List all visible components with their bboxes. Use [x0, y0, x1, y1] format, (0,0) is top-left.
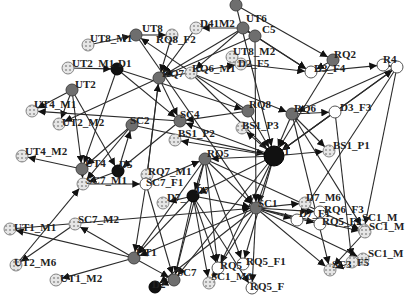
node-label: UT8_M1	[90, 32, 132, 44]
node-label: BS1_P3	[242, 119, 279, 131]
node-label: R4	[383, 53, 397, 65]
node-label: D1	[118, 57, 131, 69]
edge-HUB-to-RQ5b	[221, 156, 274, 263]
node-label: RQ5_F2	[322, 215, 362, 227]
edge-SC1-to-RQ5_F3	[252, 208, 256, 282]
node-label: RQ2	[334, 48, 357, 60]
node-label: 1	[284, 145, 290, 157]
node-label: RQ5_F1	[246, 255, 286, 267]
edge-RQ6_M1-to-RQ6	[191, 73, 286, 112]
edge-SC2-to-SC7_M1	[87, 125, 132, 179]
node-label: F5	[357, 256, 370, 268]
node-label: SC1_M6	[211, 270, 252, 282]
node-label: SC1_M	[369, 220, 405, 232]
node-label: UT4_M2	[25, 145, 68, 157]
node-label: RQ8	[249, 98, 272, 110]
node-label: D2_F5	[238, 57, 270, 69]
node-label: SC1_M	[368, 247, 404, 259]
node-label: SC7_M2	[78, 213, 119, 225]
node-label: RQ5	[207, 147, 230, 159]
node-label: D41M2	[200, 17, 235, 29]
edge-RQ7_M1-to-RQ7	[147, 84, 158, 175]
edge-UT1-to-SC7_M2	[80, 227, 134, 258]
edge-RQ6-to-BS1_P1	[292, 114, 325, 147]
node-label: UT4	[85, 157, 106, 169]
node-label: UT2_M2	[62, 116, 105, 128]
node-label: UT2_M6	[14, 256, 57, 268]
node-label: SC7_F1	[146, 176, 183, 188]
node-label: UT2	[75, 78, 96, 90]
edge-RQ6-to-SC3	[292, 114, 329, 264]
node-label: D5	[119, 158, 133, 170]
node-label: UT8_M2	[233, 45, 276, 57]
labels-layer: UT8_M1UT8RQ8_F2D41M2UT6C5UT2_M1D1RQ7RQ6_…	[14, 12, 405, 292]
node-label: BS1_P1	[333, 139, 370, 151]
node-label: SC7	[177, 266, 197, 278]
node-label: SC3	[332, 258, 352, 270]
node-label: UT1_M2	[60, 272, 103, 284]
node-label: RQ5_F	[250, 280, 285, 292]
edge-RQ5-to-SC1	[205, 159, 252, 204]
node-label: SC1	[258, 197, 278, 209]
network-diagram: UT8_M1UT8RQ8_F2D41M2UT6C5UT2_M1D1RQ7RQ6_…	[0, 0, 413, 303]
node-label: D3_F4	[314, 62, 346, 74]
node-label: UT1_M1	[14, 221, 56, 233]
node-label: RQ6_M1	[192, 62, 235, 74]
node-label: C5	[262, 23, 276, 35]
node-hub[interactable]	[264, 146, 284, 166]
node-label: RQ6	[294, 102, 317, 114]
node-topa[interactable]	[230, 0, 242, 11]
node-label: RQ7	[162, 67, 185, 79]
node-label: UT1	[136, 246, 157, 258]
node-label: BS1_P2	[178, 127, 215, 139]
node-label: SC2	[130, 114, 150, 126]
node-label: D2	[152, 278, 166, 290]
edge-UT4-to-UT4_M2	[28, 157, 82, 169]
edge-D3_F3-to-SC1_F5	[335, 112, 351, 256]
node-label: D3_F3	[340, 101, 372, 113]
node-label: RQ8_F2	[156, 33, 196, 45]
node-c5[interactable]	[249, 30, 261, 42]
node-label: D7	[196, 184, 210, 196]
network-graph-svg: UT8_M1UT8RQ8_F2D41M2UT6C5UT2_M1D1RQ7RQ6_…	[0, 0, 413, 303]
node-label: UT2_M1	[72, 57, 114, 69]
node-label: UT4_M1	[34, 98, 76, 110]
node-label: D7_	[167, 191, 186, 203]
edge-SC1-to-UT1	[140, 208, 256, 256]
node-label: SC7_M1	[86, 174, 127, 186]
node-label: SC4	[180, 108, 200, 120]
node-label: D7_M6	[306, 191, 341, 203]
